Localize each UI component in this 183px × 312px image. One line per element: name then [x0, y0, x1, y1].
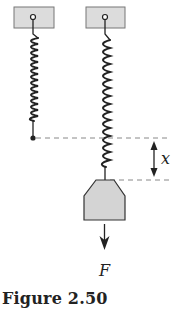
left-support [14, 7, 54, 28]
displacement-label: x [161, 149, 170, 168]
figure-caption: Figure 2.50 [2, 289, 108, 308]
force-arrow-icon [100, 224, 110, 250]
hanging-weight [84, 180, 125, 220]
force-label: F [98, 261, 111, 280]
spring-diagram: x F [0, 0, 183, 312]
right-spring [102, 20, 110, 181]
displacement-arrow-icon [151, 141, 158, 177]
left-spring [30, 20, 38, 141]
